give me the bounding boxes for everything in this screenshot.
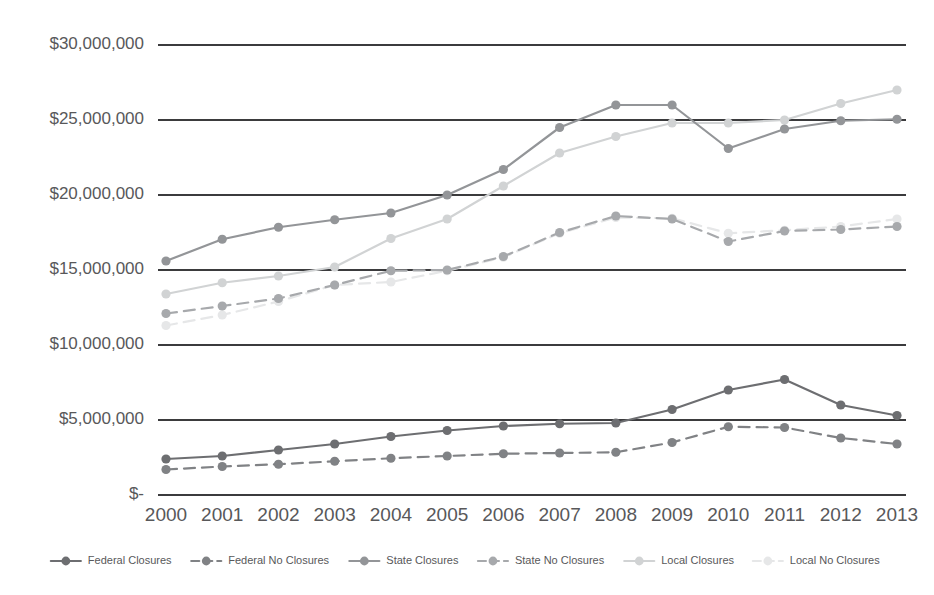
legend-item-label: Federal No Closures	[228, 554, 329, 566]
data-point-marker	[274, 271, 283, 280]
data-point-marker	[892, 411, 901, 420]
data-point-marker	[499, 181, 508, 190]
x-axis-tick-label: 2013	[876, 504, 918, 525]
data-point-marker	[836, 433, 845, 442]
y-axis-tick-label: $5,000,000	[59, 409, 144, 428]
data-point-marker	[499, 449, 508, 458]
data-point-marker	[330, 280, 339, 289]
y-axis-tick-label: $-	[129, 484, 144, 503]
data-point-marker	[667, 405, 676, 414]
data-point-marker	[161, 309, 170, 318]
data-point-marker	[218, 310, 227, 319]
y-axis-tick-label: $25,000,000	[49, 109, 144, 128]
x-axis-tick-label: 2005	[426, 504, 468, 525]
data-point-marker	[161, 321, 170, 330]
data-point-marker	[218, 278, 227, 287]
data-point-marker	[274, 445, 283, 454]
data-point-marker	[611, 100, 620, 109]
legend-item-label: State Closures	[386, 554, 459, 566]
data-point-marker	[386, 266, 395, 275]
data-point-marker	[836, 225, 845, 234]
data-point-marker	[218, 462, 227, 471]
data-point-marker	[443, 451, 452, 460]
data-point-marker	[386, 432, 395, 441]
x-axis-tick-label: 2010	[707, 504, 749, 525]
data-point-marker	[218, 451, 227, 460]
data-point-marker	[724, 144, 733, 153]
data-point-marker	[161, 454, 170, 463]
y-axis-tick-label: $30,000,000	[49, 34, 144, 53]
data-point-marker	[667, 100, 676, 109]
data-point-marker	[443, 214, 452, 223]
legend-item-label: Local No Closures	[790, 554, 880, 566]
line-chart: $-$5,000,000$10,000,000$15,000,000$20,00…	[0, 0, 934, 595]
x-axis-tick-label: 2000	[145, 504, 187, 525]
data-point-marker	[555, 228, 564, 237]
data-point-marker	[386, 234, 395, 243]
x-axis-tick-label: 2002	[257, 504, 299, 525]
legend-swatch-marker	[763, 557, 772, 566]
data-point-marker	[667, 214, 676, 223]
data-point-marker	[161, 465, 170, 474]
data-point-marker	[611, 418, 620, 427]
data-point-marker	[218, 301, 227, 310]
data-point-marker	[218, 235, 227, 244]
data-point-marker	[836, 116, 845, 125]
legend-swatch-marker	[202, 557, 211, 566]
x-axis-tick-label: 2008	[595, 504, 637, 525]
x-axis-tick-label: 2003	[314, 504, 356, 525]
x-axis-tick-label: 2006	[482, 504, 524, 525]
data-point-marker	[611, 448, 620, 457]
data-point-marker	[499, 252, 508, 261]
x-axis-tick-label: 2001	[201, 504, 243, 525]
x-axis-tick-label: 2012	[820, 504, 862, 525]
data-point-marker	[443, 426, 452, 435]
data-point-marker	[499, 421, 508, 430]
data-point-marker	[611, 211, 620, 220]
data-point-marker	[386, 454, 395, 463]
data-point-marker	[836, 99, 845, 108]
data-point-marker	[780, 124, 789, 133]
data-point-marker	[836, 400, 845, 409]
data-point-marker	[274, 223, 283, 232]
data-point-marker	[330, 215, 339, 224]
data-point-marker	[724, 385, 733, 394]
data-point-marker	[555, 448, 564, 457]
data-point-marker	[555, 123, 564, 132]
data-point-marker	[780, 226, 789, 235]
y-axis-tick-label: $15,000,000	[49, 259, 144, 278]
data-point-marker	[443, 265, 452, 274]
data-point-marker	[443, 190, 452, 199]
legend-swatch-marker	[635, 557, 644, 566]
x-axis-tick-label: 2007	[538, 504, 580, 525]
data-point-marker	[780, 375, 789, 384]
data-point-marker	[892, 85, 901, 94]
data-point-marker	[274, 460, 283, 469]
data-point-marker	[892, 222, 901, 231]
data-point-marker	[724, 422, 733, 431]
data-point-marker	[386, 208, 395, 217]
data-point-marker	[892, 439, 901, 448]
data-point-marker	[724, 118, 733, 127]
legend-item-label: Local Closures	[661, 554, 734, 566]
x-axis-tick-label: 2011	[764, 504, 805, 525]
data-point-marker	[330, 457, 339, 466]
data-point-marker	[555, 148, 564, 157]
legend-swatch-marker	[360, 557, 369, 566]
data-point-marker	[386, 277, 395, 286]
data-point-marker	[724, 229, 733, 238]
data-point-marker	[611, 132, 620, 141]
data-point-marker	[499, 165, 508, 174]
y-axis-tick-label: $20,000,000	[49, 184, 144, 203]
data-point-marker	[330, 439, 339, 448]
data-point-marker	[724, 237, 733, 246]
x-axis-tick-label: 2009	[651, 504, 693, 525]
legend-swatch-marker	[489, 557, 498, 566]
data-point-marker	[780, 115, 789, 124]
legend-item-label: State No Closures	[515, 554, 605, 566]
data-point-marker	[667, 438, 676, 447]
chart-container: $-$5,000,000$10,000,000$15,000,000$20,00…	[0, 0, 934, 595]
data-point-marker	[161, 289, 170, 298]
data-point-marker	[161, 256, 170, 265]
legend-item-label: Federal Closures	[88, 554, 172, 566]
